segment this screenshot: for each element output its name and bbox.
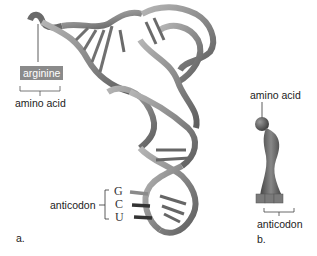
- amino-acid-bracket-a: [20, 86, 60, 96]
- trna-simplified-model: [255, 102, 294, 216]
- panel-label-b: b.: [257, 233, 266, 245]
- anticodon-base-3: U: [115, 210, 124, 225]
- anticodon-bracket-a: [99, 190, 109, 219]
- amino-acid-label-b: amino acid: [250, 89, 301, 101]
- arginine-label: arginine: [20, 66, 63, 80]
- anticodon-label-b: anticodon: [257, 218, 303, 230]
- anticodon-label-a: anticodon: [50, 199, 96, 211]
- panel-label-a: a.: [16, 232, 25, 244]
- amino-acid-label-a: amino acid: [15, 97, 66, 109]
